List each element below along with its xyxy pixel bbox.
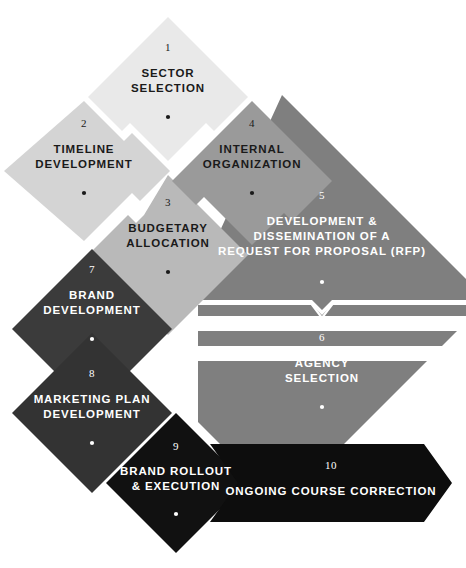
- step-9-number: 9: [173, 440, 179, 452]
- step-3-label-line-1: BUDGETARY: [128, 222, 208, 234]
- step-6-dot: [320, 405, 324, 409]
- step-6-label-line-1: AGENCY: [295, 357, 350, 369]
- step-5-dot: [320, 280, 324, 284]
- step-8-dot: [90, 441, 94, 445]
- step-8-label-line-1: MARKETING PLAN: [34, 393, 151, 405]
- step-5-label-line-1: DEVELOPMENT &: [267, 215, 378, 227]
- step-2-label-line-1: TIMELINE: [54, 143, 115, 155]
- step-2-label-line-2: DEVELOPMENT: [35, 158, 132, 170]
- step-1-number: 1: [165, 41, 171, 53]
- step-10-label-line-1: ONGOING COURSE CORRECTION: [226, 485, 437, 497]
- step-5-number: 5: [319, 189, 325, 201]
- step-1-label-line-1: SECTOR: [141, 67, 194, 79]
- step-3-dot: [166, 270, 170, 274]
- step-1-label-line-2: SELECTION: [131, 82, 205, 94]
- step-2-dot: [82, 191, 86, 195]
- step-7-label-line-1: BRAND: [69, 289, 115, 301]
- step-4-number: 4: [249, 117, 255, 129]
- step-9-label-line-2: & EXECUTION: [132, 480, 221, 492]
- step-4-label-line-1: INTERNAL: [219, 143, 284, 155]
- step-10-number: 10: [325, 459, 337, 471]
- step-3-number: 3: [165, 196, 171, 208]
- step-10-shape[interactable]: [210, 444, 452, 522]
- step-2-number: 2: [81, 117, 87, 129]
- step-5-label-line-2: DISSEMINATION OF A: [254, 230, 391, 242]
- step-9-dot: [174, 512, 178, 516]
- process-flow-diagram: 1 SECTOR SELECTION 2 TIMELINE DEVELOPMEN…: [0, 0, 466, 568]
- step-7-number: 7: [89, 263, 95, 275]
- step-6-label-line-2: SELECTION: [285, 372, 359, 384]
- step-3-label-line-2: ALLOCATION: [126, 237, 210, 249]
- step-7-dot: [90, 337, 94, 341]
- step-4-dot: [250, 191, 254, 195]
- step-7-label-line-2: DEVELOPMENT: [43, 304, 140, 316]
- flow-diagram-canvas: 1 SECTOR SELECTION 2 TIMELINE DEVELOPMEN…: [0, 0, 466, 568]
- step-8-label-line-2: DEVELOPMENT: [43, 408, 140, 420]
- step-1-dot: [166, 115, 170, 119]
- step-4-label-line-2: ORGANIZATION: [203, 158, 302, 170]
- step-5-label-line-3: REQUEST FOR PROPOSAL (RFP): [218, 245, 426, 257]
- step-6-number: 6: [319, 331, 325, 343]
- step-9-label-line-1: BRAND ROLLOUT: [120, 465, 232, 477]
- step-8-number: 8: [89, 367, 95, 379]
